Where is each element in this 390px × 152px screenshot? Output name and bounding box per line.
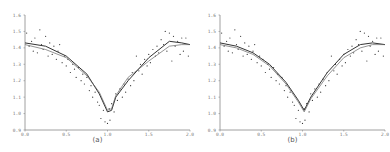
data-point [317, 97, 318, 98]
data-point [181, 37, 182, 38]
data-point [259, 55, 260, 56]
data-point [364, 32, 365, 33]
data-point [350, 55, 351, 56]
data-point [70, 72, 71, 73]
data-point [104, 121, 105, 122]
data-point [337, 74, 338, 75]
data-point [86, 77, 87, 78]
data-point [150, 62, 151, 63]
y-tick-label: 1.5 [13, 29, 21, 34]
data-point [37, 52, 38, 53]
data-point [234, 29, 235, 30]
data-point [254, 44, 255, 45]
data-point [271, 77, 272, 78]
data-point [361, 51, 362, 52]
data-point [232, 52, 233, 53]
y-tick-label: 1.0 [208, 111, 216, 116]
fit-line [25, 41, 190, 112]
data-point [314, 88, 315, 89]
data-point [302, 123, 303, 124]
data-point [380, 37, 381, 38]
data-point [165, 31, 166, 32]
data-point [45, 36, 46, 37]
data-point [111, 103, 112, 104]
data-point [290, 92, 291, 93]
y-tick-label: 1.0 [13, 111, 21, 116]
data-point [136, 55, 137, 56]
data-point [265, 72, 266, 73]
data-point [247, 54, 248, 55]
data-point [295, 118, 296, 119]
data-point [372, 41, 373, 42]
data-point [56, 59, 57, 60]
y-tick-label: 1.6 [13, 13, 21, 18]
fit-line [220, 45, 385, 112]
data-point [240, 36, 241, 37]
data-point [183, 51, 184, 52]
data-point [100, 118, 101, 119]
data-point [257, 62, 258, 63]
data-point [347, 49, 348, 50]
data-point [115, 93, 116, 94]
data-point [368, 36, 369, 37]
data-point [144, 59, 145, 60]
data-point [142, 74, 143, 75]
panel-caption-b: (b) [195, 136, 390, 144]
fit-line [25, 45, 190, 111]
data-point [188, 55, 189, 56]
data-point [109, 120, 110, 121]
data-point [31, 41, 32, 42]
data-point [140, 64, 141, 65]
data-point [376, 37, 377, 38]
y-tick-label: 1.3 [208, 62, 216, 67]
data-point [378, 51, 379, 52]
data-point [309, 111, 310, 112]
data-point [276, 80, 277, 81]
y-tick-label: 1.1 [13, 95, 21, 100]
data-point [62, 62, 63, 63]
data-point [360, 31, 361, 32]
data-point [294, 105, 295, 106]
data-point [103, 110, 104, 111]
y-tick-label: 1.5 [208, 29, 216, 34]
data-point [90, 85, 91, 86]
data-point [370, 46, 371, 47]
y-tick-label: 1.2 [13, 78, 21, 83]
y-tick-label: 1.4 [13, 45, 21, 50]
data-point [366, 60, 367, 61]
data-point [59, 44, 60, 45]
chart-panel-a: 0.91.01.11.21.31.41.51.60.00.51.01.52.0 … [0, 0, 195, 152]
data-point [331, 55, 332, 56]
data-point [92, 97, 93, 98]
data-point [284, 90, 285, 91]
data-point [125, 92, 126, 93]
data-point [161, 39, 162, 40]
data-point [325, 85, 326, 86]
data-point [53, 46, 54, 47]
panel-caption-a: (a) [0, 136, 195, 144]
data-point [345, 62, 346, 63]
data-point [279, 83, 280, 84]
data-point [84, 83, 85, 84]
data-point [76, 77, 77, 78]
y-tick-label: 1.6 [208, 13, 216, 18]
data-point [97, 101, 98, 102]
data-point [248, 46, 249, 47]
data-point [221, 32, 222, 33]
data-point [117, 100, 118, 101]
data-point [147, 65, 148, 66]
data-point [171, 60, 172, 61]
data-point [122, 97, 123, 98]
data-point [33, 51, 34, 52]
data-point [320, 92, 321, 93]
data-point [310, 93, 311, 94]
y-tick-label: 1.4 [208, 45, 216, 50]
data-point [251, 59, 252, 60]
data-point [328, 80, 329, 81]
data-point [81, 80, 82, 81]
data-point [156, 46, 157, 47]
data-point [244, 42, 245, 43]
data-point [52, 54, 53, 55]
data-point [26, 32, 27, 33]
data-point [130, 85, 131, 86]
